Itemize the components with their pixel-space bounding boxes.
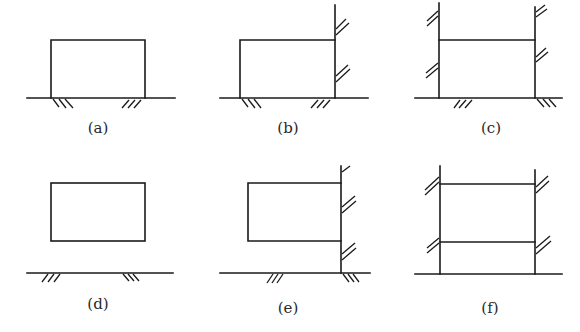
panel-a bbox=[27, 40, 175, 108]
hatch-c-right bbox=[536, 5, 548, 62]
label-f: (f) bbox=[481, 299, 498, 317]
frame-b bbox=[240, 40, 335, 98]
panel-d bbox=[27, 183, 173, 282]
hatch-f-right bbox=[536, 176, 551, 254]
label-a: (a) bbox=[88, 119, 109, 137]
label-d: (d) bbox=[87, 295, 108, 313]
hatch-e-ground bbox=[267, 274, 359, 283]
hatch-d bbox=[42, 274, 139, 282]
panel-b bbox=[220, 5, 368, 108]
frame-a bbox=[51, 40, 145, 98]
hatch-f-left bbox=[425, 177, 439, 253]
label-e: (e) bbox=[278, 299, 299, 317]
block-d bbox=[51, 183, 145, 241]
panel-c bbox=[415, 3, 562, 108]
hatch-b-wall bbox=[336, 19, 350, 82]
label-c: (c) bbox=[481, 119, 501, 137]
hatch-e-wall bbox=[342, 166, 356, 260]
hatch-a-right bbox=[122, 100, 141, 108]
label-b: (b) bbox=[277, 119, 298, 137]
hatch-a-left bbox=[53, 99, 73, 108]
hatch-c-left bbox=[426, 11, 438, 78]
panel-f bbox=[415, 166, 562, 274]
block-e bbox=[248, 183, 341, 241]
diagram-canvas bbox=[0, 0, 580, 332]
hatch-c-ground bbox=[454, 99, 556, 108]
hatch-b-ground bbox=[242, 99, 330, 108]
panel-e bbox=[220, 166, 370, 283]
